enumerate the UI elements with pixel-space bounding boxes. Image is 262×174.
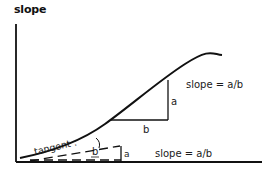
- lower-b-label: b: [92, 146, 98, 157]
- label-layer: slope = a/b a b tangent : b a slope = a/…: [0, 0, 262, 174]
- upper-a-label: a: [171, 96, 177, 107]
- upper-b-label: b: [143, 124, 149, 135]
- lower-a-label: a: [124, 149, 130, 159]
- lower-slope-label: slope = a/b: [155, 148, 212, 159]
- upper-slope-label: slope = a/b: [186, 79, 243, 90]
- slope-diagram: slope slope = a/b a b tangent : b a slop…: [0, 0, 262, 174]
- tangent-label: tangent :: [33, 136, 78, 156]
